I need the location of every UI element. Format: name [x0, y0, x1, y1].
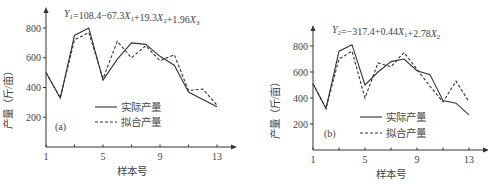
x-axis-label: 样本号 — [117, 165, 147, 177]
x-tick-label: 5 — [101, 151, 106, 162]
x-tick-label: 13 — [212, 151, 222, 162]
panel-label: (b) — [324, 128, 336, 140]
actual-yield-line — [46, 28, 217, 107]
y-axis-label: 产量（斤/亩） — [269, 77, 281, 140]
fitted-yield-line — [313, 51, 469, 108]
x-axis-arrow-icon — [483, 148, 488, 153]
panel-label: (a) — [55, 121, 66, 133]
chart-b: 15913200400600800样本号产量（斤/亩）Y2=−317.4+0.4… — [244, 0, 488, 184]
y-tick-label: 800 — [26, 23, 41, 34]
chart-a: 15913200400600800样本号产量（斤/亩）Y1=108.4−67.3… — [0, 0, 244, 184]
y-axis-label: 产量（斤/亩） — [2, 66, 14, 129]
y-tick-label: 800 — [293, 41, 308, 52]
x-tick-label: 13 — [464, 154, 474, 165]
legend: 实际产量拟合产量 — [360, 111, 427, 139]
y-tick-label: 400 — [26, 82, 41, 93]
y-tick-label: 600 — [26, 52, 41, 63]
legend: 实际产量拟合产量 — [95, 101, 162, 128]
x-tick-label: 9 — [415, 154, 420, 165]
y-tick-label: 400 — [293, 93, 308, 104]
y-tick-label: 200 — [293, 119, 308, 130]
regression-equation: Y1=108.4−67.3X1+19.3X2+1.96X3 — [64, 8, 200, 27]
y-tick-label: 600 — [293, 67, 308, 78]
x-tick-label: 1 — [311, 154, 316, 165]
legend-label: 实际产量 — [121, 101, 162, 113]
x-axis-label: 样本号 — [376, 168, 406, 180]
legend-label: 拟合产量 — [121, 116, 162, 128]
actual-yield-line — [313, 45, 469, 115]
y-tick-label: 200 — [26, 112, 41, 123]
x-tick-label: 9 — [158, 151, 163, 162]
y-axis-arrow-icon — [311, 25, 316, 31]
x-tick-label: 1 — [44, 151, 49, 162]
legend-label: 拟合产量 — [386, 127, 427, 139]
x-tick-label: 5 — [363, 154, 368, 165]
legend-label: 实际产量 — [386, 111, 427, 123]
y-axis-arrow-icon — [44, 7, 49, 13]
regression-equation: Y2=−317.4+0.44X1+2.78X2 — [332, 24, 441, 41]
x-axis-arrow-icon — [231, 145, 237, 150]
